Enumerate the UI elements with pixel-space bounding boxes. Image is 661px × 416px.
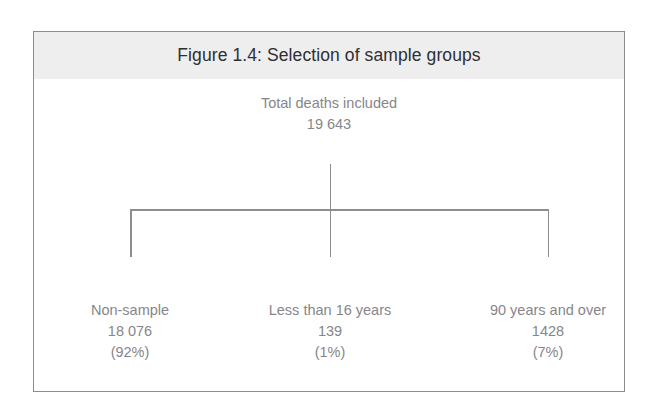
node-root: Total deaths included 19 643 [34, 93, 624, 135]
connector-drop-right [548, 209, 550, 257]
node-non-sample-percent: (92%) [50, 342, 210, 363]
figure-title-band: Figure 1.4: Selection of sample groups [34, 32, 624, 79]
node-90-years-and-over: 90 years and over 1428 (7%) [468, 300, 628, 363]
node-90-years-and-over-percent: (7%) [468, 342, 628, 363]
node-less-than-16-years-percent: (1%) [250, 342, 410, 363]
node-less-than-16-years-value: 139 [250, 321, 410, 342]
node-non-sample-label: Non-sample [50, 300, 210, 321]
node-90-years-and-over-value: 1428 [468, 321, 628, 342]
node-non-sample: Non-sample 18 076 (92%) [50, 300, 210, 363]
connector-bus-horizontal [130, 209, 549, 211]
node-non-sample-value: 18 076 [50, 321, 210, 342]
node-less-than-16-years: Less than 16 years 139 (1%) [250, 300, 410, 363]
node-root-label: Total deaths included [34, 93, 624, 114]
figure-frame: Figure 1.4: Selection of sample groups T… [33, 31, 625, 392]
diagram-canvas: Total deaths included 19 643 Non-sample … [34, 79, 624, 391]
figure-title: Figure 1.4: Selection of sample groups [177, 45, 480, 66]
node-90-years-and-over-label: 90 years and over [468, 300, 628, 321]
connector-stem-center [330, 164, 332, 257]
node-root-value: 19 643 [34, 114, 624, 135]
connector-drop-left [130, 209, 132, 257]
node-less-than-16-years-label: Less than 16 years [250, 300, 410, 321]
